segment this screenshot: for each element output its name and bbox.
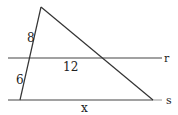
label-r: r: [164, 52, 170, 65]
parallel-lines-triangle-diagram: 8 6 12 x r s: [0, 0, 178, 115]
label-8: 8: [27, 31, 35, 45]
label-6: 6: [16, 73, 24, 87]
label-12: 12: [63, 60, 78, 74]
label-x: x: [81, 101, 88, 115]
label-s: s: [166, 94, 172, 107]
triangle-right-side: [41, 7, 153, 100]
